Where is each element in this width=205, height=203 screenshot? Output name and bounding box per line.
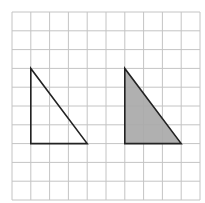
square-grid: [12, 12, 200, 200]
grid-diagram: [0, 0, 205, 203]
